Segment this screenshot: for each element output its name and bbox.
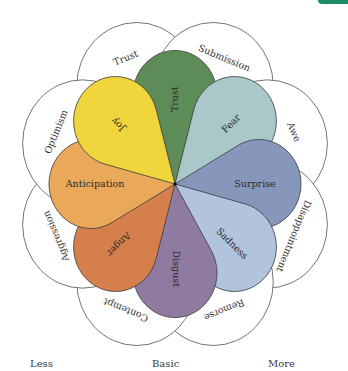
- legend-less-label: Less: [30, 358, 53, 369]
- petal-label: Disgust: [171, 251, 182, 288]
- legend-more-label: More: [268, 358, 295, 369]
- center-point: [173, 182, 176, 185]
- petal-label: Trust: [169, 86, 180, 112]
- petal-label: Surprise: [234, 178, 276, 189]
- legend-basic-label: Basic: [152, 358, 179, 369]
- petal-label: Anticipation: [65, 178, 125, 189]
- emotion-wheel: TrustSubmissionAweDisappointmentRemorseC…: [0, 0, 348, 371]
